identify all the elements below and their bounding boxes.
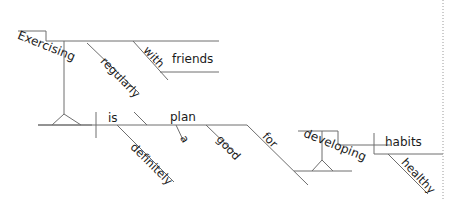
label-is: is [108,112,118,124]
label-habits: habits [385,136,422,148]
label-plan: plan [170,111,196,123]
gerund-stand-leg-left [52,114,64,125]
label-friends: friends [172,53,213,65]
gerund2-stand-leg-left [312,160,322,171]
gerund-stand-leg-right [64,114,81,125]
preposition-line-for [247,125,308,185]
diagram-strokes [0,0,451,200]
sentence-diagram-canvas: Exercising regularly with friends is def… [0,0,451,200]
predicate-nominative-divider [134,112,147,125]
gerund2-stand-leg-right [322,160,333,171]
